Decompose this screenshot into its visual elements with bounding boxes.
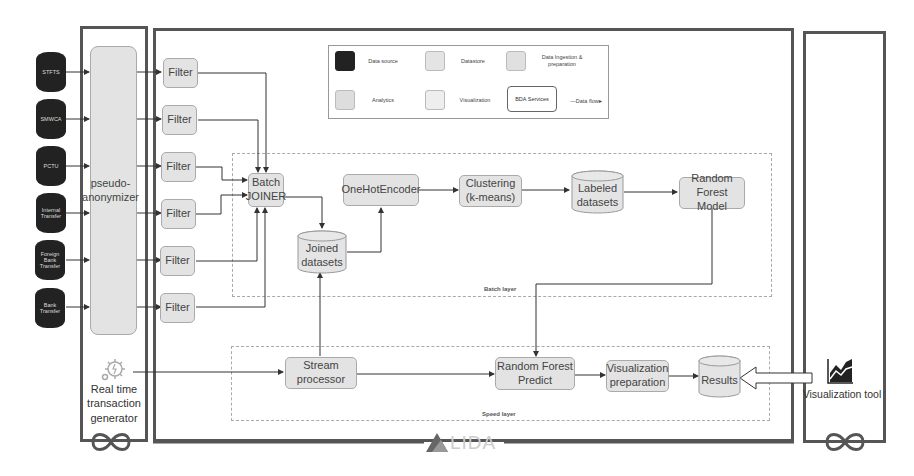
source-label: SMWCA [40,116,61,122]
visualization-tool-label: Visualization tool [800,388,884,402]
legend-label: Analytics [363,97,403,104]
filter-6: Filter [160,293,195,323]
legend-swatch-bda-services: BDA Services [507,86,557,112]
filter-1: Filter [163,58,198,88]
legend-data-flow: —Data flow▸ [565,98,607,105]
legend-swatch-datastore [425,51,445,71]
random-forest-model: Random Forest Model [679,177,745,209]
visualization-preparation: Visualization preparation [606,360,669,392]
data-source-bank-transfer: Bank Transfer [35,288,65,328]
gear-clock-icon [100,358,126,382]
vizprep-label: Visualization preparation [607,362,669,390]
source-label: PCTU [44,163,59,169]
results-label: Results [701,366,738,388]
pseudo-anonymizer: pseudo-anonymizer [90,46,137,335]
filter-2: Filter [162,105,197,135]
predict-label: Random Forest Predict [496,360,574,388]
filter-label: Filter [168,66,192,80]
onehot-encoder: OneHotEncoder [343,174,419,206]
legend-label: Datastore [453,58,493,65]
anonymizer-label: pseudo-anonymizer [82,177,139,205]
lida-logo-text: LIDA [450,432,496,454]
legend-swatch-analytics [335,90,355,110]
real-time-generator-label: Real time transaction generator [83,382,145,425]
stream-processor: Stream processor [285,357,357,389]
data-source-foreign-bank-transfer: Foreign Bank Transfer [35,240,65,280]
batch-joiner: Batch JOINER [248,173,284,207]
data-source-pctu: PCTU [36,146,66,186]
encoder-label: OneHotEncoder [342,183,421,197]
legend-swatch-ingestion [506,51,526,71]
data-source-internal-transfer: Internal Transfer [36,193,66,233]
legend-label: Data Ingestion & preparation [529,54,595,67]
labeled-datasets: Labeled datasets [571,170,624,214]
joiner-label: Batch JOINER [246,176,286,204]
model-label: Random Forest Model [680,172,744,213]
filter-4: Filter [161,199,196,229]
source-label: Internal Transfer [36,207,66,220]
source-label: Foreign Bank Transfer [35,251,65,270]
legend-label: Visualization [453,97,497,104]
legend-label: BDA Services [515,96,549,102]
source-label: STFTS [42,69,59,75]
data-source-smwca: SMWCA [36,99,66,139]
data-source-stftts: STFTS [36,52,66,92]
legend: Data source Datastore Data Ingestion & p… [328,45,609,119]
labeled-label: Labeled datasets [571,174,624,210]
legend-swatch-data-source [335,51,355,71]
results-datastore: Results [698,355,741,398]
joined-label: Joined datasets [297,234,347,270]
filter-label: Filter [167,113,191,127]
legend-swatch-visualization [425,90,445,110]
joined-datasets: Joined datasets [297,230,347,274]
source-label: Bank Transfer [35,302,65,315]
legend-label: Data source [363,58,403,65]
stream-label: Stream processor [286,359,356,387]
filter-label: Filter [166,160,190,174]
filter-label: Filter [166,207,190,221]
filter-5: Filter [160,246,195,276]
filter-label: Filter [165,254,189,268]
area-chart-icon [826,357,854,385]
clustering-label: Clustering (k-means) [460,177,521,205]
random-forest-predict: Random Forest Predict [495,357,575,390]
filter-label: Filter [165,301,189,315]
clustering-kmeans: Clustering (k-means) [459,175,522,207]
filter-3: Filter [161,152,196,182]
